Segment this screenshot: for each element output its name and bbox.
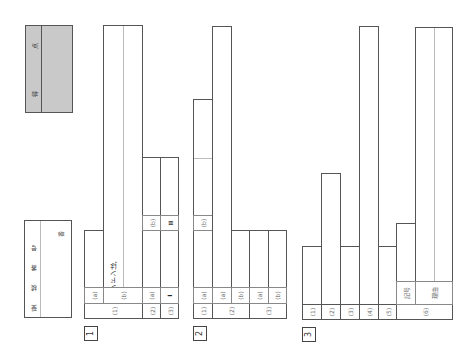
s3-q1-number-cell: (1) [302, 304, 322, 320]
score-label-1: 得 [29, 89, 39, 99]
s2-q2-number-cell: (2) [212, 303, 250, 319]
s3-q3-number-cell: (3) [340, 304, 360, 320]
s1-q2-number-cell: (2) [142, 303, 161, 319]
section-1-number: 1 [84, 326, 98, 341]
s3-q1-answer[interactable] [302, 246, 322, 305]
s3-q6-reason-label-cell: 理由 [415, 281, 453, 305]
score-input[interactable] [42, 26, 72, 112]
s2-q1-number-cell: (1) [193, 303, 213, 319]
s2-q1b-answer[interactable] [193, 99, 213, 231]
score-label-2: 点 [29, 41, 39, 51]
s3-q2-answer[interactable] [321, 173, 341, 305]
exam-number-input[interactable] [41, 221, 71, 317]
s2-q2a-label-cell: (a) [212, 287, 232, 304]
section-3-number: 3 [302, 327, 316, 342]
s3-q6-reason-answer[interactable] [415, 27, 453, 305]
s1-q1-number-cell: (1) [84, 303, 143, 319]
s3-q6-symbol-label-cell: 記号 [396, 281, 416, 305]
s2-q2a-answer[interactable] [212, 26, 232, 304]
s2-q1a-label-cell: (a) [193, 287, 213, 304]
section-2-number: 2 [193, 326, 207, 341]
s1-q2a-label-cell: (a) [142, 287, 161, 304]
s2-q1b-label-cell: (b) [193, 215, 213, 231]
s3-q3-answer[interactable] [340, 246, 360, 305]
s3-q4-number-cell: (4) [359, 304, 379, 320]
s1-q3-number-cell: (3) [160, 303, 179, 319]
s1-q1b-answer[interactable]: ロンドンは, [103, 25, 143, 304]
exam-number-label: 受 検 番 号 [29, 239, 38, 311]
score-box: 得 点 [25, 25, 73, 113]
s2-q3-number-cell: (3) [249, 303, 287, 319]
s3-q4-answer[interactable] [359, 26, 379, 305]
exam-number-box: 受 検 番 号 番 [24, 220, 72, 318]
s3-q5-number-cell: (5) [378, 304, 397, 320]
s1-q3-II-label-cell: II [160, 215, 179, 231]
s2-q3a-label-cell: (a) [249, 287, 269, 304]
s2-q3b-label-cell: (b) [268, 287, 287, 304]
s2-q2b-label-cell: (b) [231, 287, 250, 304]
s1-q1a-label-cell: (a) [84, 287, 104, 304]
s3-q2-number-cell: (2) [321, 304, 341, 320]
s1-q1b-label-cell: (b) [103, 287, 143, 304]
s1-q2b-label-cell: (b) [142, 215, 161, 231]
s1-q3-I-label-cell: I [160, 287, 179, 304]
